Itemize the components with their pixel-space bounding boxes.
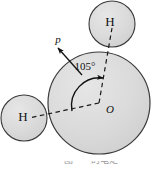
figure-root: H H O 105° p 图······的电矩 <box>0 0 165 169</box>
caption-text: 图······的电矩 <box>64 161 118 164</box>
bond-angle-label: 105° <box>75 60 96 72</box>
hydrogen-left-label: H <box>18 109 27 124</box>
molecule-diagram: H H O 105° p <box>0 0 165 169</box>
dipole-vector-label: p <box>54 33 61 45</box>
caption-strip: 图······的电矩 <box>0 161 165 169</box>
oxygen-center-label: O <box>106 103 114 115</box>
hydrogen-top-label: H <box>105 14 114 29</box>
